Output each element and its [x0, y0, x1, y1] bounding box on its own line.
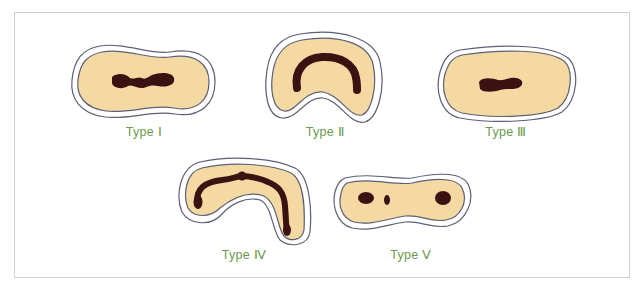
diagram-canvas: [0, 0, 640, 287]
type-4-figure: [179, 158, 311, 244]
type-1-figure: [72, 45, 215, 117]
type-2-figure: [266, 32, 382, 122]
type-4-label: Type Ⅳ: [222, 247, 266, 262]
type-4-end-right: [283, 224, 291, 236]
type-5-label: Type Ⅴ: [390, 247, 431, 262]
type-4-end-left: [194, 195, 203, 209]
type-5-blob-right: [435, 191, 451, 205]
type-2-label: Type Ⅱ: [306, 124, 344, 139]
type-5-blob-left: [358, 192, 374, 204]
type-3-figure: [438, 46, 576, 121]
type-4-node: [238, 172, 247, 181]
type-3-label: Type Ⅲ: [485, 124, 526, 139]
type-1-label: Type Ⅰ: [126, 124, 162, 139]
type-5-figure: [334, 174, 471, 229]
type-5-blob-middle: [384, 195, 390, 205]
